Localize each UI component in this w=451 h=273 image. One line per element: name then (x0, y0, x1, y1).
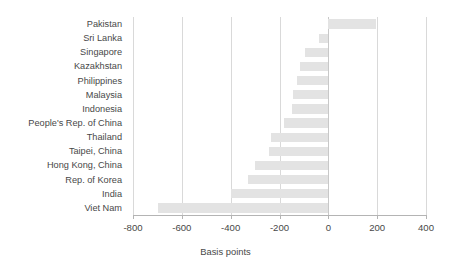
x-tick-label: 400 (404, 222, 448, 233)
bar (297, 76, 329, 85)
tick-mark (231, 215, 232, 219)
bar-row (133, 130, 426, 144)
bar-row (133, 173, 426, 187)
y-tick-label: Thailand (0, 130, 122, 144)
bar-row (133, 17, 426, 31)
bar-row (133, 116, 426, 130)
y-tick-label: Malaysia (0, 88, 122, 102)
y-tick-label: Kazakhstan (0, 59, 122, 73)
bar (248, 175, 329, 184)
x-tick-label: -600 (160, 222, 204, 233)
y-tick-label: Singapore (0, 45, 122, 59)
tick-mark (182, 215, 183, 219)
bar (300, 62, 328, 71)
tick-mark (280, 215, 281, 219)
x-tick-label: 0 (306, 222, 350, 233)
plot-area (133, 17, 426, 215)
y-tick-label: Viet Nam (0, 201, 122, 215)
bar (319, 34, 329, 43)
bar-row (133, 59, 426, 73)
tick-mark (426, 215, 427, 219)
bar (284, 118, 328, 127)
tick-mark (377, 215, 378, 219)
bar-row (133, 102, 426, 116)
x-axis-title: Basis points (0, 246, 451, 257)
x-tick-label: -800 (111, 222, 155, 233)
tick-mark (133, 215, 134, 219)
tick-mark (328, 215, 329, 219)
bar-row (133, 74, 426, 88)
x-tick-label: 200 (355, 222, 399, 233)
bar (292, 104, 329, 113)
gridline-400 (426, 17, 427, 215)
bar-row (133, 187, 426, 201)
y-tick-label: Rep. of Korea (0, 173, 122, 187)
bar (271, 133, 328, 142)
y-tick-label: Hong Kong, China (0, 158, 122, 172)
y-tick-label: Taipei, China (0, 144, 122, 158)
bar-row (133, 88, 426, 102)
bar (305, 48, 328, 57)
bar-row (133, 158, 426, 172)
y-tick-label: Pakistan (0, 17, 122, 31)
bar-chart: PakistanSri LankaSingaporeKazakhstanPhil… (0, 0, 451, 273)
x-tick-label: -400 (209, 222, 253, 233)
bar (328, 19, 376, 28)
y-tick-label: People's Rep. of China (0, 116, 122, 130)
y-tick-label: Indonesia (0, 102, 122, 116)
bar (158, 203, 328, 212)
y-axis-category-labels: PakistanSri LankaSingaporeKazakhstanPhil… (0, 17, 128, 215)
y-tick-label: Sri Lanka (0, 31, 122, 45)
bar-row (133, 31, 426, 45)
bar (293, 90, 328, 99)
bar (231, 189, 329, 198)
bar-row (133, 45, 426, 59)
bar (255, 161, 328, 170)
y-tick-label: Philippines (0, 74, 122, 88)
bar-row (133, 201, 426, 215)
bar (269, 147, 329, 156)
x-tick-label: -200 (258, 222, 302, 233)
bar-row (133, 144, 426, 158)
y-tick-label: India (0, 187, 122, 201)
